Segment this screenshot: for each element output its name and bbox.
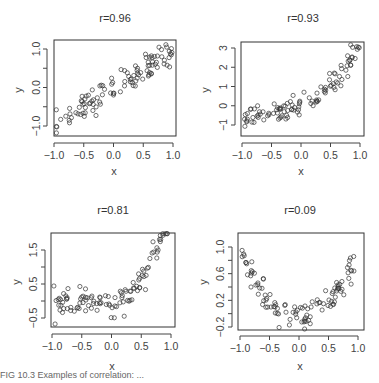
- x-tick-label: −1.0: [42, 340, 63, 352]
- y-tick-label: 0.2: [214, 293, 226, 308]
- x-axis-label: x: [111, 165, 117, 177]
- axes: −1.0−0.50.00.51.0−1.00.01.0: [30, 42, 180, 161]
- panel-1: r=0.96 −1.0−0.50.00.51.0−1.00.01.0 x y: [12, 12, 180, 177]
- x-tick-label: 1.0: [164, 340, 179, 352]
- x-tick-label: −1.0: [44, 149, 65, 161]
- figure-caption: FIG 10.3 Examples of correlation: ...: [0, 370, 144, 380]
- x-tick-label: 1.0: [353, 149, 368, 161]
- panel-4: r=0.09 −1.0−0.50.00.51.0−0.20.20.61.0 x …: [197, 204, 365, 372]
- x-tick-label: −0.5: [261, 149, 282, 161]
- y-tick-label: 0.0: [30, 80, 42, 95]
- x-tick-label: −1.0: [230, 342, 251, 354]
- x-tick-label: −0.5: [71, 340, 92, 352]
- y-axis-label: y: [12, 87, 24, 93]
- axes: −1.0−0.50.00.51.0−0.50.51.5: [27, 243, 178, 352]
- x-tick-label: 1.0: [351, 342, 366, 354]
- scatter-points: [243, 43, 362, 129]
- x-tick-label: 0.0: [294, 149, 309, 161]
- x-tick-label: 0.0: [106, 149, 121, 161]
- x-tick-label: 0.5: [136, 149, 151, 161]
- x-tick-label: −0.5: [73, 149, 94, 161]
- y-tick-label: 0.5: [27, 277, 39, 292]
- y-tick-label: 1.0: [214, 240, 226, 255]
- y-axis-label: y: [197, 279, 209, 285]
- y-tick-label: −1: [217, 119, 229, 131]
- scatter-points: [52, 232, 169, 327]
- y-tick-label: 0: [217, 103, 229, 109]
- x-tick-label: 0.5: [134, 340, 149, 352]
- x-tick-label: 0.5: [321, 342, 336, 354]
- y-axis-label: y: [199, 87, 211, 93]
- y-tick-label: −0.2: [214, 316, 226, 337]
- y-tick-label: 0.6: [214, 266, 226, 281]
- panel-2: r=0.93 −1.0−0.50.00.51.0−10123 x y: [199, 12, 367, 177]
- x-tick-label: −0.5: [259, 342, 280, 354]
- y-tick-label: 1: [217, 83, 229, 89]
- y-axis-label: y: [10, 279, 22, 285]
- x-tick-label: 0.0: [104, 340, 119, 352]
- panel-title: r=0.09: [284, 204, 316, 216]
- scatter-points: [240, 248, 356, 331]
- y-tick-label: 1.5: [27, 243, 39, 258]
- plot-frame: [54, 40, 176, 136]
- panel-3: r=0.81 −1.0−0.50.00.51.0−0.50.51.5 x y: [10, 204, 178, 372]
- panel-title: r=0.81: [97, 204, 129, 216]
- scatter-figure: r=0.96 −1.0−0.50.00.51.0−1.00.01.0 x y r…: [0, 0, 379, 383]
- x-tick-label: 1.0: [166, 149, 181, 161]
- x-axis-label: x: [298, 165, 304, 177]
- y-tick-label: −1.0: [30, 115, 42, 136]
- x-tick-label: 0.0: [292, 342, 307, 354]
- y-tick-label: 2: [217, 64, 229, 70]
- panel-title: r=0.96: [99, 12, 131, 24]
- x-tick-label: −1.0: [232, 149, 253, 161]
- panel-title: r=0.93: [287, 12, 319, 24]
- scatter-points: [54, 43, 174, 135]
- y-tick-label: −0.5: [27, 307, 39, 328]
- y-tick-label: 1.0: [30, 42, 42, 57]
- x-tick-label: 0.5: [323, 149, 338, 161]
- plot-frame: [51, 233, 175, 327]
- x-axis-label: x: [297, 360, 303, 372]
- y-tick-label: 3: [217, 45, 229, 51]
